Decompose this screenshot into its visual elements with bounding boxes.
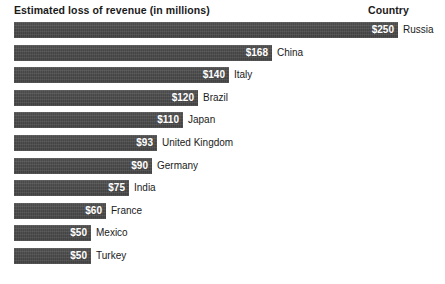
country-label: Russia xyxy=(403,22,434,38)
bar-value-label: $50 xyxy=(70,248,87,264)
country-label: Brazil xyxy=(203,90,228,106)
bar-row: $140Italy xyxy=(0,67,445,83)
category-axis-title: Country xyxy=(368,4,409,16)
bar-row: $50Mexico xyxy=(0,225,445,241)
bar: $120 xyxy=(14,90,198,106)
bar: $60 xyxy=(14,203,106,219)
bar: $110 xyxy=(14,112,183,128)
bar-row: $120Brazil xyxy=(0,90,445,106)
country-label: United Kingdom xyxy=(162,135,233,151)
bar-value-label: $110 xyxy=(157,112,179,128)
bar-row: $110Japan xyxy=(0,112,445,128)
country-label: China xyxy=(277,45,303,61)
country-label: India xyxy=(134,180,156,196)
bar: $50 xyxy=(14,248,91,264)
bar: $140 xyxy=(14,67,229,83)
bar-value-label: $93 xyxy=(136,135,153,151)
country-label: France xyxy=(111,203,142,219)
country-label: Turkey xyxy=(96,248,126,264)
bars-container: $250Russia$168China$140Italy$120Brazil$1… xyxy=(0,22,445,280)
bar-row: $60France xyxy=(0,203,445,219)
bar: $90 xyxy=(14,158,152,174)
bar: $168 xyxy=(14,45,272,61)
bar-row: $50Turkey xyxy=(0,248,445,264)
country-label: Germany xyxy=(157,158,198,174)
bar: $50 xyxy=(14,225,91,241)
bar: $250 xyxy=(14,22,398,38)
country-label: Japan xyxy=(188,112,215,128)
country-label: Mexico xyxy=(96,225,128,241)
bar-value-label: $140 xyxy=(203,67,225,83)
bar-value-label: $90 xyxy=(131,158,148,174)
bar: $75 xyxy=(14,180,129,196)
bar-value-label: $120 xyxy=(172,90,194,106)
bar-row: $168China xyxy=(0,45,445,61)
bar-row: $250Russia xyxy=(0,22,445,38)
chart-header: Estimated loss of revenue (in millions) … xyxy=(0,4,445,20)
bar-value-label: $168 xyxy=(246,45,268,61)
bar-value-label: $250 xyxy=(372,22,394,38)
bar-row: $93United Kingdom xyxy=(0,135,445,151)
bar-value-label: $50 xyxy=(70,225,87,241)
bar-chart: Estimated loss of revenue (in millions) … xyxy=(0,0,445,284)
bar: $93 xyxy=(14,135,157,151)
bar-row: $75India xyxy=(0,180,445,196)
bar-row: $90Germany xyxy=(0,158,445,174)
country-label: Italy xyxy=(234,67,252,83)
bar-value-label: $75 xyxy=(108,180,125,196)
bar-value-label: $60 xyxy=(85,203,102,219)
value-axis-title: Estimated loss of revenue (in millions) xyxy=(14,4,210,16)
